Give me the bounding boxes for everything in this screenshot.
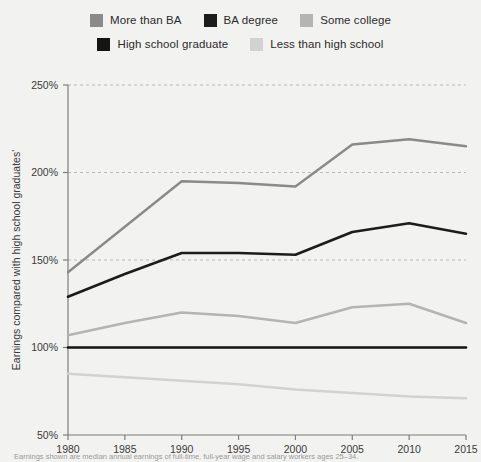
legend-label: Some college xyxy=(320,14,391,26)
series-lines xyxy=(68,139,466,398)
legend-item-high-school-graduate[interactable]: High school graduate xyxy=(97,38,228,51)
legend-swatch-icon xyxy=(204,14,217,27)
legend-label: BA degree xyxy=(224,14,279,26)
plot-area: 50%100%150%200%250% 19801985199019952000… xyxy=(0,62,481,462)
y-tick-label: 150% xyxy=(31,254,58,266)
legend-item-less-than-high-school[interactable]: Less than high school xyxy=(250,38,383,51)
gridlines xyxy=(68,85,466,348)
series-line-2 xyxy=(68,304,466,336)
legend-swatch-icon xyxy=(300,14,313,27)
y-tick-label: 50% xyxy=(37,429,58,441)
x-tick-marks xyxy=(68,435,466,440)
legend-item-ba-degree[interactable]: BA degree xyxy=(204,14,279,27)
series-line-4 xyxy=(68,374,466,399)
legend-row-1: More than BABA degreeSome college xyxy=(0,8,481,32)
chart-footnote: Earnings shown are median annual earning… xyxy=(14,452,474,462)
legend-label: More than BA xyxy=(110,14,182,26)
y-tick-label: 200% xyxy=(31,166,58,178)
legend-swatch-icon xyxy=(90,14,103,27)
series-line-0 xyxy=(68,139,466,272)
y-tick-marks xyxy=(63,85,68,435)
y-tick-label: 100% xyxy=(31,341,58,353)
legend-label: Less than high school xyxy=(270,38,383,50)
plot-svg: 50%100%150%200%250% 19801985199019952000… xyxy=(0,62,481,462)
legend-label: High school graduate xyxy=(117,38,228,50)
y-axis-title: Earnings compared with high school gradu… xyxy=(10,150,22,370)
legend-swatch-icon xyxy=(97,38,110,51)
y-tick-label: 250% xyxy=(31,79,58,91)
legend-item-more-than-ba[interactable]: More than BA xyxy=(90,14,182,27)
legend-swatch-icon xyxy=(250,38,263,51)
earnings-line-chart: More than BABA degreeSome college High s… xyxy=(0,0,481,462)
legend-item-some-college[interactable]: Some college xyxy=(300,14,391,27)
legend-row-2: High school graduateLess than high schoo… xyxy=(0,32,481,56)
y-tick-labels: 50%100%150%200%250% xyxy=(31,79,58,441)
chart-legend: More than BABA degreeSome college High s… xyxy=(0,8,481,56)
